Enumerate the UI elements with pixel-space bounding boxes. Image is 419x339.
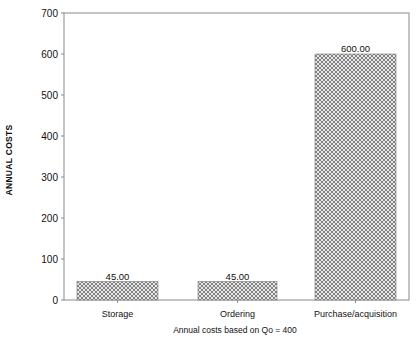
y-tick-label: 300 (41, 172, 58, 183)
bar-ordering (198, 282, 277, 300)
y-tick-label: 400 (41, 131, 58, 142)
y-axis-ticks: 0100200300400500600700 (41, 8, 64, 306)
x-axis-categories: StorageOrderingPurchase/acquisition (102, 300, 397, 319)
y-tick-label: 100 (41, 254, 58, 265)
bar-storage (77, 282, 158, 300)
bar-value-label: 600.00 (341, 43, 370, 54)
y-tick-label: 200 (41, 213, 58, 224)
y-axis-label: ANNUAL COSTS (4, 124, 14, 195)
bars: 45.0045.00600.00 (77, 43, 396, 300)
y-tick-label: 500 (41, 90, 58, 101)
y-tick-label: 700 (41, 8, 58, 19)
bar-value-label: 45.00 (106, 271, 130, 282)
bar-purchase-acquisition (315, 54, 396, 300)
y-tick-label: 600 (41, 49, 58, 60)
x-axis-label: Annual costs based on Qo = 400 (173, 325, 297, 335)
x-category-label: Purchase/acquisition (314, 309, 397, 319)
y-tick-label: 0 (52, 295, 58, 306)
bar-chart: 0100200300400500600700 45.0045.00600.00 … (0, 0, 419, 339)
x-category-label: Ordering (220, 309, 255, 319)
bar-value-label: 45.00 (226, 271, 250, 282)
x-category-label: Storage (102, 309, 134, 319)
